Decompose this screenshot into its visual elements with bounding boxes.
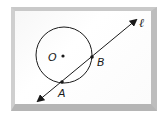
point-a	[60, 80, 64, 84]
label-line-l: ℓ	[139, 16, 144, 30]
point-b	[90, 55, 94, 59]
geometry-figure: O B A ℓ	[0, 0, 163, 118]
label-o: O	[48, 51, 57, 64]
label-b: B	[97, 56, 105, 69]
label-a: A	[57, 87, 66, 100]
center-point-o	[61, 54, 64, 57]
